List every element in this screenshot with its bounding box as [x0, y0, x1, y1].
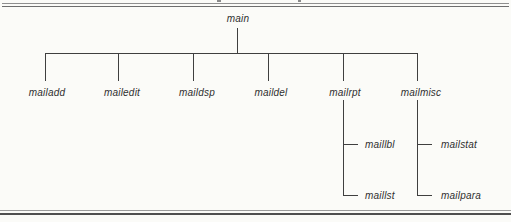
connector-mailmisc-spine [417, 100, 418, 196]
node-mailmisc: mailmisc [401, 87, 442, 98]
connector-drop-mailadd [45, 53, 46, 81]
node-mailstat: mailstat [441, 139, 477, 150]
connector-drop-mailedit [118, 53, 119, 81]
cropped-caption-artifact [298, 0, 301, 2]
connector-drop-maildel [268, 53, 269, 81]
bottom-rule-thin [0, 210, 511, 211]
connector-drop-maildsp [193, 53, 194, 81]
top-rule-lower [2, 6, 509, 7]
connector-mailrpt-spine [343, 100, 344, 196]
connector-tick-mailstat [417, 144, 432, 145]
node-mailadd: mailadd [29, 87, 65, 98]
connector-main-stem [237, 28, 238, 53]
top-rule-upper [2, 3, 509, 4]
connector-tick-mailpara [417, 195, 432, 196]
connector-level1-bar [45, 53, 418, 54]
connector-tick-maillst [343, 195, 358, 196]
scanned-page: main mailadd mailedit maildsp maildel ma… [0, 0, 511, 222]
node-main: main [227, 13, 249, 24]
node-mailedit: mailedit [104, 87, 140, 98]
node-maildsp: maildsp [179, 87, 215, 98]
node-mailrpt: mailrpt [329, 87, 360, 98]
connector-drop-mailmisc [417, 53, 418, 81]
bottom-rule-thick [0, 213, 511, 215]
node-mailpara: mailpara [441, 190, 481, 201]
node-maildel: maildel [254, 87, 287, 98]
cropped-caption-artifact [217, 0, 221, 2]
connector-tick-maillbl [343, 144, 358, 145]
node-maillst: maillst [365, 190, 395, 201]
node-maillbl: maillbl [365, 139, 395, 150]
connector-drop-mailrpt [343, 53, 344, 81]
